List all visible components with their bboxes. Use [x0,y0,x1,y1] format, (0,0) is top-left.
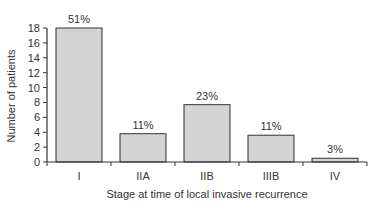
x-category-label: IIA [136,170,150,182]
y-axis: 024681012141618 [28,22,47,168]
bar-rect [56,28,102,162]
y-tick-label: 0 [34,156,40,168]
y-tick-label: 4 [34,126,40,138]
y-tick-label: 6 [34,111,40,123]
bar-percent-label: 51% [68,13,90,25]
bar-rect [120,134,166,162]
y-tick-label: 16 [28,37,40,49]
y-tick-label: 18 [28,22,40,34]
bar-iia: 11% [120,119,166,162]
x-category-label: IV [330,170,341,182]
bar-iv: 3% [312,143,358,162]
bar-rect [184,105,230,162]
bar-i: 51% [56,13,102,162]
x-axis: IIIAIIBIIIBIV [47,162,367,182]
bar-rect [248,135,294,162]
x-axis-title: Stage at time of local invasive recurren… [106,188,307,200]
y-tick-label: 14 [28,52,40,64]
bar-iib: 23% [184,90,230,162]
bar-percent-label: 11% [260,120,281,132]
bar-iiib: 11% [248,120,294,162]
bar-percent-label: 23% [196,90,218,102]
y-tick-label: 12 [28,67,40,79]
y-tick-label: 10 [28,82,40,94]
x-category-label: IIB [200,170,213,182]
y-tick-label: 8 [34,96,40,108]
bars: 51%11%23%11%3% [56,13,358,162]
bar-percent-label: 11% [132,119,153,131]
y-axis-title: Number of patients [5,49,17,142]
bar-chart: 024681012141618 51%11%23%11%3% IIIAIIBII… [0,0,381,215]
x-category-label: IIIB [263,170,280,182]
x-category-label: I [77,170,80,182]
bar-percent-label: 3% [327,143,343,155]
y-tick-label: 2 [34,141,40,153]
